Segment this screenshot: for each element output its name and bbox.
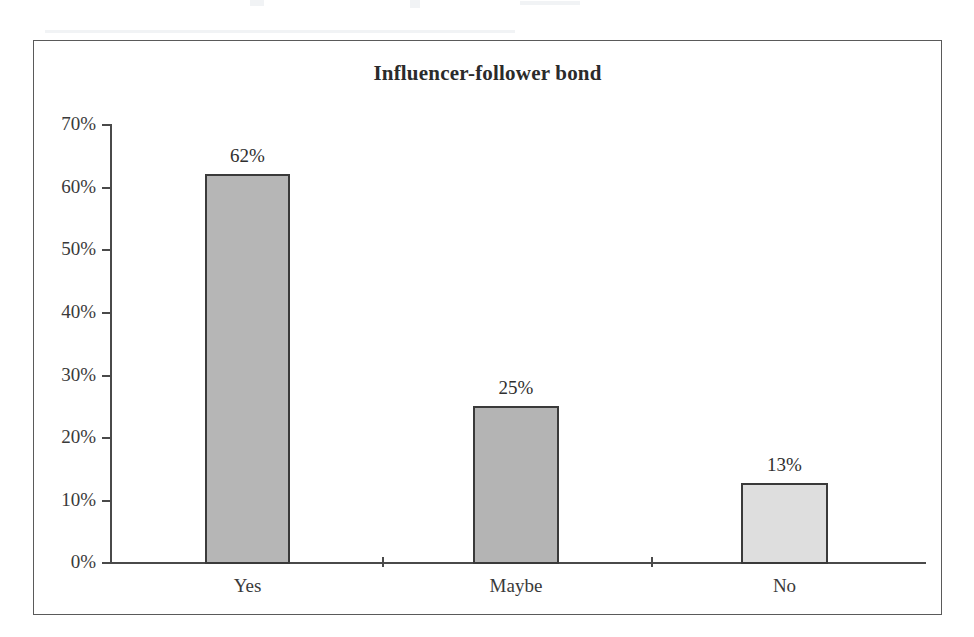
bar-value-no: 13% — [741, 454, 828, 476]
y-tick-70 — [102, 124, 111, 126]
bar-value-yes: 62% — [205, 145, 290, 167]
x-tick-2 — [651, 557, 653, 567]
y-tick-40 — [102, 312, 111, 314]
y-tick-label-10: 10% — [28, 489, 96, 511]
category-label-maybe: Maybe — [463, 575, 569, 597]
y-tick-label-40: 40% — [28, 301, 96, 323]
y-axis-line — [110, 124, 112, 564]
y-tick-10 — [102, 500, 111, 502]
y-tick-label-20: 20% — [28, 426, 96, 448]
y-tick-label-60: 60% — [28, 176, 96, 198]
y-tick-50 — [102, 249, 111, 251]
y-tick-30 — [102, 375, 111, 377]
scan-artifact-strip — [0, 0, 974, 36]
y-tick-20 — [102, 437, 111, 439]
y-tick-label-30: 30% — [28, 364, 96, 386]
plot-area: 70% 60% 50% 40% 30% 20% 10% 0% 62% Yes 2… — [34, 41, 943, 616]
y-tick-label-50: 50% — [28, 238, 96, 260]
category-label-yes: Yes — [195, 575, 300, 597]
chart-frame: Influencer-follower bond 70% 60% 50% 40%… — [33, 40, 942, 615]
x-tick-1 — [382, 557, 384, 567]
bar-maybe[interactable] — [473, 406, 559, 564]
category-label-no: No — [731, 575, 838, 597]
y-tick-60 — [102, 187, 111, 189]
bar-value-maybe: 25% — [473, 377, 559, 399]
bar-yes[interactable] — [205, 174, 290, 564]
bar-no[interactable] — [741, 483, 828, 564]
y-tick-label-0: 0% — [28, 551, 96, 573]
y-tick-label-70: 70% — [28, 113, 96, 135]
y-tick-0 — [102, 562, 111, 564]
